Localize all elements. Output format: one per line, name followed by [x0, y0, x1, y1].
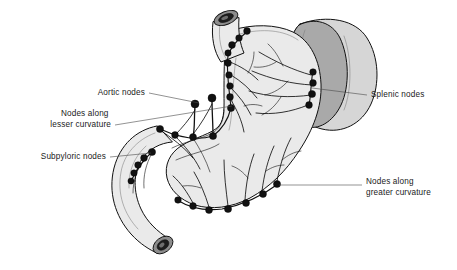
duodenum-body — [112, 126, 172, 253]
anatomical-figure: Aortic nodes Nodes along lesser curvatur… — [0, 0, 457, 270]
label-subpyloric-nodes-line-1: Subpyloric nodes — [41, 152, 106, 161]
lymph-node[interactable] — [306, 102, 313, 109]
lymph-node[interactable] — [209, 132, 216, 139]
label-nodes-lesser-curvature: Nodes along lesser curvature — [50, 109, 111, 129]
lymph-node[interactable] — [206, 207, 213, 214]
lymph-node[interactable] — [310, 69, 317, 76]
lymph-node[interactable] — [308, 90, 315, 97]
lymph-node[interactable] — [190, 134, 197, 141]
label-aortic-nodes: Aortic nodes — [98, 88, 145, 97]
leader-aortic-nodes — [149, 93, 199, 103]
duodenum-organ — [112, 126, 176, 258]
lymph-node[interactable] — [244, 28, 251, 35]
lymph-node[interactable] — [310, 80, 317, 87]
lymph-node[interactable] — [236, 35, 243, 42]
label-aortic-nodes-line-1: Aortic nodes — [98, 88, 145, 97]
lymph-node[interactable] — [128, 178, 134, 184]
lymph-node[interactable] — [260, 191, 267, 198]
stalk-aortic-right-branch — [194, 104, 212, 133]
label-subpyloric-nodes: Subpyloric nodes — [41, 152, 106, 161]
label-nodes-lesser-curvature-line-1: Nodes along — [61, 109, 109, 118]
lymph-node[interactable] — [243, 200, 250, 207]
label-splenic-nodes: Splenic nodes — [371, 90, 424, 99]
lymph-node[interactable] — [191, 100, 199, 108]
lymph-node[interactable] — [226, 72, 233, 79]
leader-nodes-lesser-curvature — [115, 106, 232, 125]
organ-group — [112, 7, 377, 257]
lymph-node[interactable] — [229, 42, 236, 49]
lymph-node[interactable] — [172, 132, 179, 139]
lymph-node[interactable] — [131, 170, 137, 176]
lymph-node[interactable] — [141, 155, 148, 162]
lymph-node[interactable] — [227, 94, 234, 101]
label-nodes-greater-curvature-line-1: Nodes along — [366, 177, 414, 186]
lymph-node[interactable] — [208, 94, 216, 102]
label-nodes-greater-curvature-line-2: greater curvature — [366, 188, 431, 197]
label-nodes-greater-curvature: Nodes along greater curvature — [366, 177, 431, 197]
lymph-node[interactable] — [156, 125, 163, 132]
lymph-node[interactable] — [224, 205, 231, 212]
lymph-node[interactable] — [273, 180, 280, 187]
lymph-node[interactable] — [225, 50, 231, 56]
label-nodes-lesser-curvature-line-2: lesser curvature — [50, 120, 111, 129]
lymph-node[interactable] — [225, 60, 232, 67]
stomach-lymphatics-illustration: Aortic nodes Nodes along lesser curvatur… — [0, 0, 457, 270]
lymph-node[interactable] — [227, 83, 234, 90]
lymph-node[interactable] — [190, 203, 197, 210]
lymph-node[interactable] — [175, 197, 182, 204]
lymph-node[interactable] — [227, 104, 234, 111]
lymph-node[interactable] — [148, 148, 155, 155]
label-splenic-nodes-line-1: Splenic nodes — [371, 90, 424, 99]
lymph-node[interactable] — [135, 162, 142, 169]
